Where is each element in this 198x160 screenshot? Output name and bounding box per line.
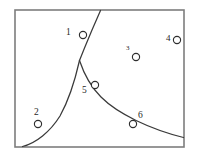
figure-canvas bbox=[0, 0, 198, 160]
data-point-marker-2[interactable] bbox=[34, 120, 41, 127]
data-point-marker-3[interactable] bbox=[132, 53, 139, 60]
data-point-label-5: 5 bbox=[82, 86, 87, 96]
data-point-marker-5[interactable] bbox=[91, 81, 98, 88]
data-point-marker-1[interactable] bbox=[79, 31, 86, 38]
data-point-label-1: 1 bbox=[66, 28, 71, 38]
data-point-label-4: 4 bbox=[166, 34, 171, 43]
data-point-label-2: 2 bbox=[34, 108, 39, 118]
data-point-marker-4[interactable] bbox=[173, 36, 180, 43]
data-point-label-6: 6 bbox=[138, 111, 143, 121]
data-point-label-3: 3 bbox=[126, 45, 130, 52]
data-point-marker-6[interactable] bbox=[129, 120, 136, 127]
figure-container: 123456 bbox=[0, 0, 198, 160]
